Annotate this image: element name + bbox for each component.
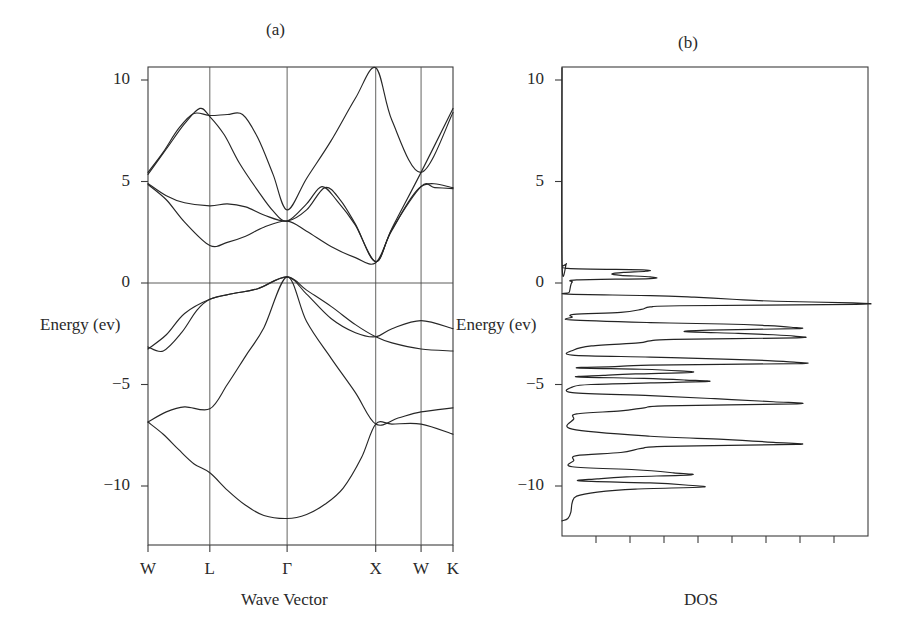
panel-a-y-tick-label: 10 — [86, 69, 130, 89]
figure-container: (a) (b) Energy (ev) Energy (ev) Wave Vec… — [0, 0, 906, 632]
panel-b-title: (b) — [678, 33, 698, 53]
band-curve — [148, 277, 453, 425]
band-structure-plot — [141, 67, 453, 552]
panel-b-y-tick-label: 0 — [500, 272, 544, 292]
k-point-label-5: K — [433, 559, 473, 579]
panel-b-y-tick-label: 5 — [500, 171, 544, 191]
k-point-label-0: W — [128, 559, 168, 579]
panel-a-y-tick-label: 5 — [86, 171, 130, 191]
k-point-label-2: Γ — [267, 559, 307, 579]
panel-b-y-tick-label: −10 — [500, 475, 544, 495]
panel-a-y-tick-label: −5 — [86, 374, 130, 394]
panel-b-y-tick-label: 10 — [500, 69, 544, 89]
dos-curve — [562, 68, 871, 521]
k-point-label-3: X — [356, 559, 396, 579]
band-curve — [148, 67, 453, 210]
panel-a-y-tick-label: 0 — [86, 272, 130, 292]
band-curve — [148, 184, 453, 265]
panel-a-y-axis-label: Energy (ev) — [40, 315, 120, 335]
panel-b-y-axis-label: Energy (ev) — [456, 315, 536, 335]
band-curve — [148, 108, 453, 261]
panel-b-x-axis-label: DOS — [684, 590, 718, 610]
panel-a-y-tick-label: −10 — [86, 475, 130, 495]
k-point-label-1: L — [190, 559, 230, 579]
band-curve — [148, 184, 453, 262]
plot-surface — [0, 0, 906, 632]
panel-b-frame — [562, 67, 868, 536]
band-curve — [148, 422, 453, 519]
panel-a-title: (a) — [266, 20, 285, 40]
dos-plot — [555, 67, 871, 543]
panel-b-y-tick-label: −5 — [500, 374, 544, 394]
band-curve — [148, 277, 453, 349]
panel-a-x-axis-label: Wave Vector — [241, 590, 328, 610]
